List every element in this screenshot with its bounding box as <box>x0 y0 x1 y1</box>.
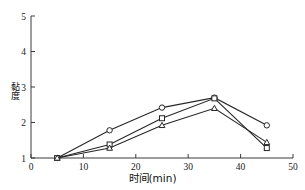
chart-figure: 01020304050 12345 黏度 时间(min) <box>0 0 305 190</box>
x-axis-title: 时间(min) <box>0 170 305 185</box>
data-point-circle <box>107 128 112 133</box>
y-tick-label: 3 <box>21 83 26 93</box>
data-point-triangle <box>264 139 270 144</box>
plot-area: 01020304050 12345 <box>0 0 305 190</box>
y-tick-label: 5 <box>21 12 26 22</box>
y-tick-group: 12345 <box>21 12 35 164</box>
y-tick-label: 4 <box>21 47 26 57</box>
y-tick-label: 1 <box>21 154 26 164</box>
data-point-square <box>264 146 269 151</box>
data-point-triangle <box>212 105 218 110</box>
axis-group <box>31 16 293 158</box>
series-triangle <box>54 105 269 160</box>
data-point-square <box>212 96 217 101</box>
data-series-group <box>54 95 269 161</box>
data-point-circle <box>264 123 269 128</box>
y-tick-label: 2 <box>21 118 26 128</box>
data-point-circle <box>159 105 164 110</box>
data-point-square <box>160 116 165 121</box>
y-axis-title: 黏度 <box>5 74 19 108</box>
